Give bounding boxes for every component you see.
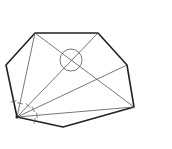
- diagonal-A-D: [17, 33, 98, 117]
- vertex-A-dot: [15, 115, 18, 118]
- diagonal-A-C: [17, 33, 35, 117]
- diagonal-C-F: [35, 33, 134, 107]
- diagonals: [17, 33, 134, 117]
- polygon-diagram: [0, 0, 172, 149]
- angle-tick-F: [37, 112, 38, 118]
